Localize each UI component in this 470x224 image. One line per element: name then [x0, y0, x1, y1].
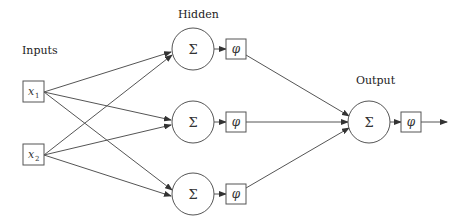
input-hidden-edges: [44, 52, 172, 196]
sigma-icon: Σ: [188, 187, 197, 202]
output-label: Output: [356, 74, 396, 87]
hidden-node-1: Σ φ: [172, 28, 246, 70]
svg-text:2: 2: [35, 155, 39, 163]
sigma-icon: Σ: [188, 115, 197, 130]
sigma-icon: Σ: [188, 42, 197, 57]
hidden-label: Hidden: [178, 8, 219, 21]
input-node-x1: x 1: [23, 81, 44, 102]
input-node-x2: x 2: [23, 144, 44, 165]
hidden-node-2: Σ φ: [172, 101, 246, 143]
svg-text:x: x: [28, 148, 35, 161]
phi-icon: φ: [232, 187, 241, 201]
phi-icon: φ: [232, 115, 241, 129]
output-node: Σ φ: [348, 101, 447, 143]
sigma-icon: Σ: [364, 115, 373, 130]
hidden-node-3: Σ φ: [172, 173, 246, 215]
inputs-label: Inputs: [22, 44, 58, 57]
phi-icon: φ: [232, 42, 241, 56]
hidden-output-edges: [246, 55, 349, 188]
neural-network-diagram: Inputs Hidden Output x 1 x 2 Σ φ Σ φ Σ: [0, 0, 470, 224]
svg-text:x: x: [28, 85, 35, 98]
phi-icon: φ: [407, 115, 416, 129]
svg-text:1: 1: [35, 92, 39, 100]
